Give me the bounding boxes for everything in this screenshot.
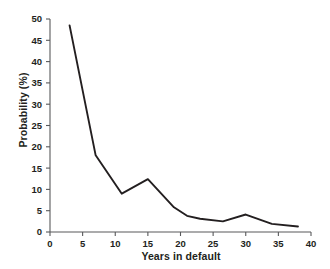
line-chart-plot: 0510152025303540 05101520253035404550	[0, 0, 330, 269]
y-tick-label: 25	[31, 120, 42, 131]
y-axis-ticks: 05101520253035404550	[31, 13, 50, 237]
x-tick-label: 35	[273, 238, 284, 249]
y-axis-title: Probability (%)	[17, 40, 29, 180]
x-tick-label: 40	[306, 238, 317, 249]
y-tick-label: 5	[37, 205, 43, 216]
x-tick-label: 30	[240, 238, 251, 249]
y-tick-label: 15	[31, 163, 42, 174]
y-tick-label: 20	[31, 141, 42, 152]
y-tick-label: 35	[31, 77, 42, 88]
data-series-group	[70, 25, 298, 226]
series-line	[70, 25, 298, 226]
x-tick-label: 20	[175, 238, 186, 249]
x-tick-label: 15	[143, 238, 154, 249]
x-axis-title: Years in default	[50, 250, 312, 262]
x-axis-ticks: 0510152025303540	[47, 232, 316, 249]
chart-container: 0510152025303540 05101520253035404550 Pr…	[0, 0, 330, 269]
x-tick-label: 10	[110, 238, 121, 249]
x-tick-label: 5	[80, 238, 86, 249]
x-tick-label: 0	[47, 238, 52, 249]
y-tick-label: 45	[31, 35, 42, 46]
x-tick-label: 25	[208, 238, 219, 249]
y-tick-label: 50	[31, 13, 42, 24]
y-tick-label: 10	[31, 184, 42, 195]
y-tick-label: 40	[31, 56, 42, 67]
y-tick-label: 0	[37, 226, 42, 237]
y-tick-label: 30	[31, 99, 42, 110]
